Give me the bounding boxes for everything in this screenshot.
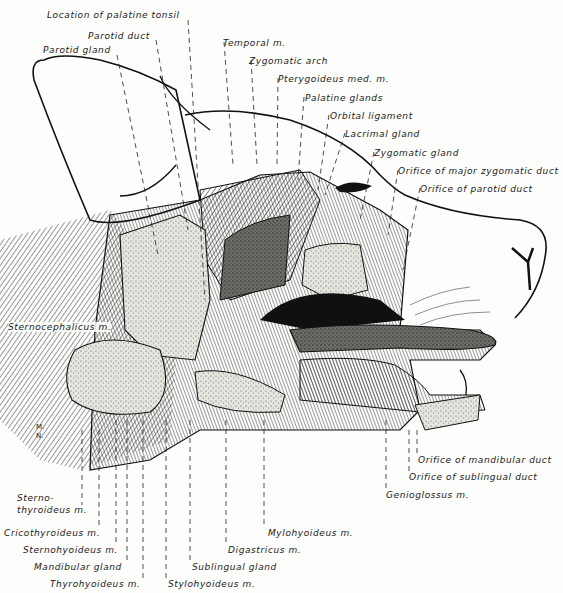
label-orifice-major-zygomatic-duct: Orifice of major zygomatic duct (398, 166, 559, 176)
ear-outline (33, 56, 200, 223)
parotid-gland (120, 215, 210, 360)
label-sternothyroideus-line2: thyroideus m. (17, 505, 87, 515)
canine-tooth (460, 370, 466, 395)
label-stylohyoideus-m: Stylohyoideus m. (168, 579, 255, 589)
label-location-of-palatine-tonsil: Location of palatine tonsil (47, 10, 180, 20)
label-orifice-sublingual-duct: Orifice of sublingual duct (409, 472, 537, 482)
artist-signature-m: M. (36, 424, 44, 431)
mandibular-gland (67, 340, 166, 414)
label-parotid-duct: Parotid duct (88, 31, 150, 41)
label-sublingual-gland: Sublingual gland (192, 562, 277, 572)
tongue (290, 325, 496, 352)
label-sternocephalicus-m: Sternocephalicus m. (8, 322, 111, 332)
label-mylohyoideus-m: Mylohyoideus m. (268, 528, 353, 538)
label-cricothyroideus-m: Cricothyroideus m. (4, 528, 100, 538)
label-parotid-gland: Parotid gland (43, 45, 111, 55)
label-orbital-ligament: Orbital ligament (330, 111, 413, 121)
whiskers (410, 287, 490, 325)
label-temporal-m: Temporal m. (223, 38, 286, 48)
nose (512, 248, 533, 290)
label-mandibular-gland: Mandibular gland (34, 562, 122, 572)
label-zygomatic-gland: Zygomatic gland (374, 148, 459, 158)
label-sternothyroideus-line1: Sterno- (17, 493, 54, 503)
label-sternohyoideus-m: Sternohyoideus m. (23, 545, 118, 555)
label-digastricus-m: Digastricus m. (228, 545, 301, 555)
label-genioglossus-m: Genioglossus m. (386, 490, 469, 500)
label-thyrohyoideus-m: Thyrohyoideus m. (50, 579, 141, 589)
artist-signature-n: N. (36, 433, 43, 440)
label-orifice-mandibular-duct: Orifice of mandibular duct (418, 455, 552, 465)
label-orifice-parotid-duct: Orifice of parotid duct (420, 184, 533, 194)
label-lacrimal-gland: Lacrimal gland (345, 129, 420, 139)
label-zygomatic-arch: Zygomatic arch (249, 56, 328, 66)
label-pterygoideus-med-m: Pterygoideus med. m. (278, 74, 389, 84)
anatomical-figure: Location of palatine tonsil Parotid duct… (0, 0, 563, 593)
label-palatine-glands: Palatine glands (305, 93, 383, 103)
